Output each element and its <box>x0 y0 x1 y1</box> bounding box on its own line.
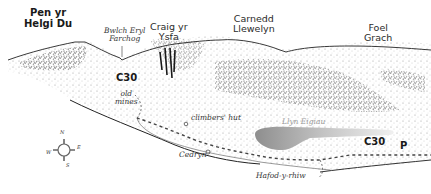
compass-w: W <box>46 150 51 155</box>
compass-s: S <box>66 163 69 168</box>
peak-line: Ysfa <box>150 32 188 42</box>
parking-label: P <box>400 141 407 152</box>
peak-label-carnedd-llewelyn: Carnedd Llewelyn <box>233 14 275 34</box>
peak-line: Grach <box>364 33 392 43</box>
compass-n: N <box>60 130 64 135</box>
peak-line: Pen yr <box>24 8 72 19</box>
peak-line: Llewelyn <box>233 24 275 34</box>
compass-e: E <box>77 145 81 150</box>
route-label-c30-east: C30 <box>364 137 385 148</box>
feature-line: mines <box>115 98 138 106</box>
peak-label-pen-yr-helgi-du: Pen yr Helgi Du <box>24 8 72 29</box>
feature-label-lake: Llyn Eigiau <box>282 118 325 126</box>
feature-label-old-mines: old mines <box>115 90 138 106</box>
peak-line: Farchog <box>104 35 145 43</box>
pass-label-bwlch-eryl-farchog: Bwlch Eryl Farchog <box>104 27 145 43</box>
feature-label-hafod-y-rhiw: Hafod-y-rhiw <box>256 172 306 180</box>
route-label-c30-west: C30 <box>116 73 137 84</box>
compass-icon <box>53 139 75 161</box>
feature-label-climbers-hut: climbers' hut <box>191 114 241 122</box>
peak-line: Helgi Du <box>24 19 72 30</box>
peak-label-craig-yr-ysfa: Craig yr Ysfa <box>150 22 188 42</box>
peak-label-foel-grach: Foel Grach <box>364 23 392 43</box>
feature-label-cedryn: Cedryn <box>179 151 207 159</box>
